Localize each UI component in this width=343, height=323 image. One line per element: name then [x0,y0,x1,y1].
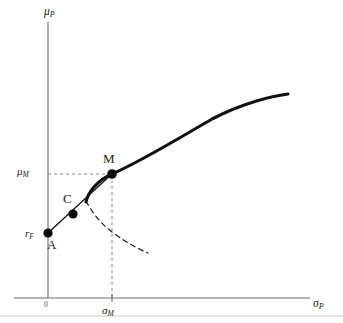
y-axis-label: μP [44,6,55,19]
origin-label: 0 [44,301,48,309]
inefficient-frontier-curve [86,201,148,253]
chart-canvas [0,0,343,323]
y-tick-label-mu-m: μM [17,166,29,179]
x-tick-label-sigma-m: σM [102,305,114,318]
point-a-label: A [47,238,56,251]
point-m-label: M [103,152,115,165]
x-axis-label: σP [313,298,324,311]
figure-container: μP σP μM σM rF A C M 0 [0,0,343,323]
point-c-label: C [63,192,72,205]
capital-market-line [48,172,114,233]
risk-free-rate-label: rF [25,228,34,241]
point-c-marker [68,209,77,218]
efficient-frontier-curve [86,94,288,202]
point-m-marker [107,169,117,179]
